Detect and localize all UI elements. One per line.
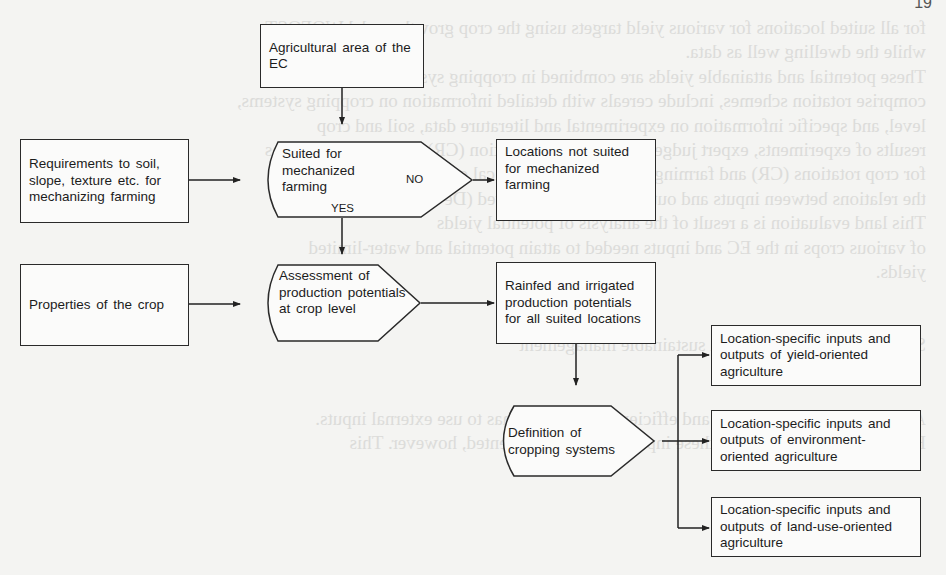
decision-yes-label: YES bbox=[331, 202, 354, 214]
land-use-oriented-label: Location-specific inputs and outputs of … bbox=[720, 502, 912, 552]
yield-oriented-box: Location-specific inputs and outputs of … bbox=[711, 325, 921, 386]
yield-oriented-label: Location-specific inputs and outputs of … bbox=[720, 331, 912, 381]
not-suited-label: Locations not suited for mechanized farm… bbox=[505, 144, 647, 194]
requirements-box: Requirements to soil, slope, texture etc… bbox=[20, 139, 189, 223]
decision-no-label: NO bbox=[406, 173, 423, 185]
definition-label: Definition of cropping systems bbox=[508, 425, 638, 458]
agricultural-area-label: Agricultural area of the EC bbox=[269, 40, 415, 73]
agricultural-area-box: Agricultural area of the EC bbox=[260, 24, 424, 88]
environment-oriented-box: Location-specific inputs and outputs of … bbox=[711, 410, 921, 471]
crop-properties-box: Properties of the crop bbox=[20, 264, 189, 346]
land-use-oriented-box: Location-specific inputs and outputs of … bbox=[711, 497, 921, 557]
rainfed-box: Rainfed and irrigated production potenti… bbox=[496, 262, 656, 344]
requirements-label: Requirements to soil, slope, texture etc… bbox=[29, 156, 180, 206]
not-suited-box: Locations not suited for mechanized farm… bbox=[496, 139, 656, 221]
decision-label: Suited for mechanized farming bbox=[282, 146, 392, 196]
crop-properties-label: Properties of the crop bbox=[29, 297, 164, 314]
assessment-label: Assessment of production potentials at c… bbox=[279, 268, 409, 318]
environment-oriented-label: Location-specific inputs and outputs of … bbox=[720, 416, 912, 466]
rainfed-label: Rainfed and irrigated production potenti… bbox=[505, 278, 647, 328]
